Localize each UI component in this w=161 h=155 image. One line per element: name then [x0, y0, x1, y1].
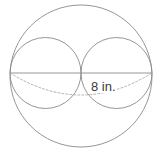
measurement-label: 8 in.	[90, 80, 117, 93]
figure-canvas	[0, 0, 161, 155]
geometry-figure: 8 in.	[0, 0, 161, 155]
